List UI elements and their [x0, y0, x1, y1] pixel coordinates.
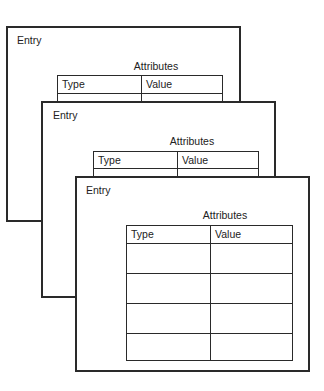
- column-header-type: Type: [62, 78, 85, 90]
- entry-title: Entry: [17, 34, 42, 46]
- column-header-value: Value: [182, 154, 208, 166]
- column-header-type: Type: [98, 154, 121, 166]
- table-row-separator: [127, 303, 292, 304]
- attributes-caption: Attributes: [203, 209, 247, 221]
- entry-title: Entry: [86, 184, 111, 196]
- table-row-separator: [127, 333, 292, 334]
- column-header-value: Value: [146, 78, 172, 90]
- header-separator: [94, 168, 258, 169]
- column-header-type: Type: [131, 228, 154, 240]
- attributes-caption: Attributes: [170, 135, 214, 147]
- attributes-table: Type Value: [126, 225, 293, 361]
- header-separator: [127, 243, 292, 244]
- column-header-value: Value: [215, 228, 241, 240]
- column-divider: [210, 226, 211, 360]
- entry-title: Entry: [53, 109, 78, 121]
- table-row-separator: [127, 273, 292, 274]
- attributes-caption: Attributes: [134, 60, 178, 72]
- header-separator: [58, 93, 222, 94]
- entry-card-3: Entry Attributes Type Value: [75, 176, 310, 372]
